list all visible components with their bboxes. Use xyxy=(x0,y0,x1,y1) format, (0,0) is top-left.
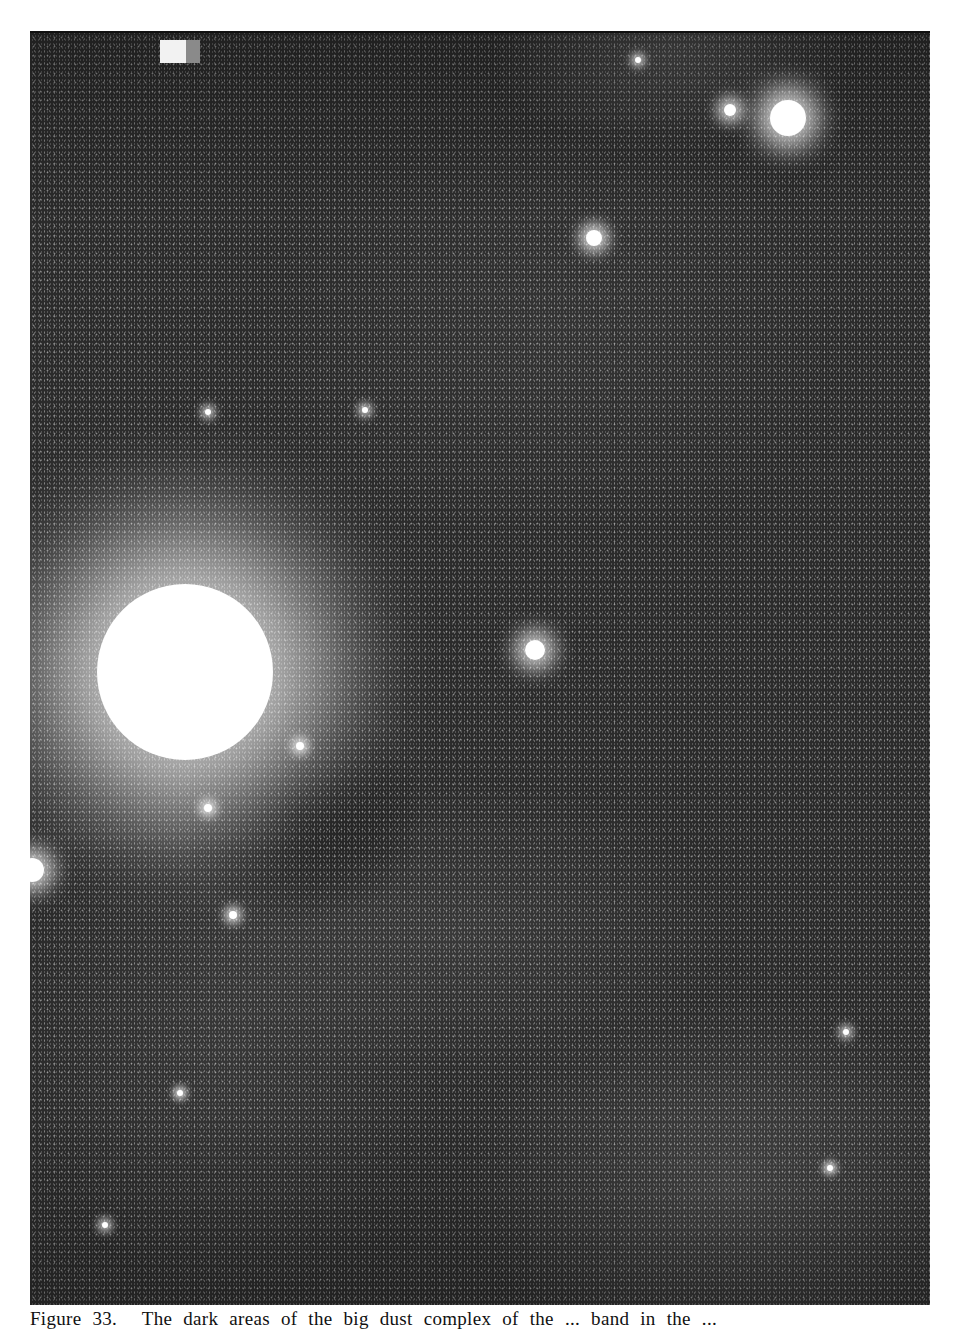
star-lower-right-icon xyxy=(827,1165,833,1171)
star-lower-left-icon xyxy=(229,911,237,919)
star-below-bright-icon xyxy=(204,804,212,812)
figure-caption: Figure 33. The dark areas of the big dus… xyxy=(30,1308,930,1330)
star-field-photograph xyxy=(30,33,930,1305)
bright-star-top-right-icon xyxy=(770,100,806,136)
calibration-tab-marker xyxy=(160,40,200,63)
calibration-tab-white xyxy=(160,40,186,63)
star-lower-left-2-icon xyxy=(102,1222,108,1228)
star-near-dust-icon xyxy=(296,742,304,750)
star-upper-left-2-icon xyxy=(362,407,368,413)
calibration-tab-gray xyxy=(186,40,200,63)
star-top-right-2-icon xyxy=(724,104,736,116)
figure-caption-text: The dark areas of the big dust complex o… xyxy=(142,1308,717,1329)
bright-star-left-icon xyxy=(97,584,273,760)
star-upper-mid-icon xyxy=(586,230,602,246)
figure-caption-label: Figure 33. xyxy=(30,1308,117,1329)
star-mid-left-icon xyxy=(177,1090,183,1096)
star-right-low-icon xyxy=(843,1029,849,1035)
star-center-cluster-icon xyxy=(525,640,545,660)
star-top-mid-icon xyxy=(635,57,641,63)
star-upper-left-1-icon xyxy=(205,409,211,415)
star-left-edge-icon xyxy=(30,858,44,882)
